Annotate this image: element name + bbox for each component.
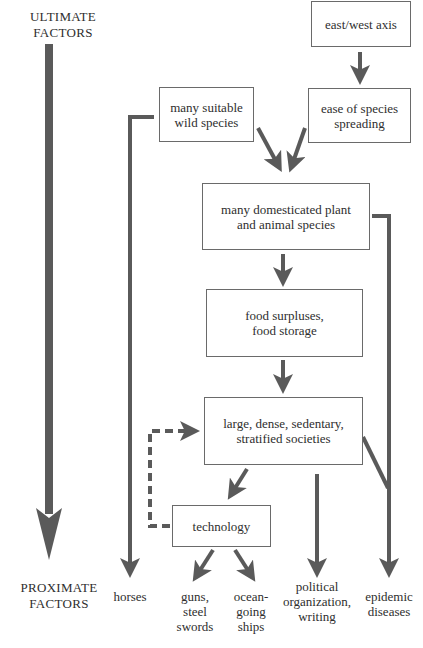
box-east-west-axis-text: east/west axis [325, 17, 397, 32]
box-east-west-axis: east/west axis [311, 1, 411, 47]
box-ease-text: ease of species spreading [321, 101, 398, 131]
line-domesticated-to-epidemic [372, 216, 389, 570]
outcome-ocean-going-ships: ocean- going ships [223, 589, 279, 634]
box-technology-text: technology [193, 519, 251, 534]
box-domesticated-text: many domesticated plant and animal speci… [221, 202, 351, 232]
proximate-factors-label: PROXIMATE FACTORS [4, 580, 114, 612]
outcome-guns-steel-swords: guns, steel swords [165, 589, 225, 634]
box-many-domesticated-species: many domesticated plant and animal speci… [202, 183, 370, 250]
box-wild-text: many suitable wild species [170, 100, 243, 130]
arrow-ease-to-domesticated [292, 128, 305, 165]
box-ease-of-species-spreading: ease of species spreading [308, 88, 411, 143]
box-societies-text: large, dense, sedentary, stratified soci… [223, 416, 344, 446]
box-food-text: food surpluses, food storage [245, 308, 324, 338]
ultimate-to-proximate-axis-arrow [36, 44, 62, 560]
box-many-suitable-wild-species: many suitable wild species [159, 87, 254, 142]
outcome-epidemic-diseases: epidemic diseases [357, 589, 421, 619]
arrow-societies-to-technology [232, 469, 247, 493]
box-large-dense-societies: large, dense, sedentary, stratified soci… [204, 397, 363, 465]
outcome-political-organization-writing: political organization, writing [278, 579, 356, 624]
box-food-surpluses: food surpluses, food storage [206, 289, 363, 357]
arrow-wild-to-domesticated [258, 128, 278, 165]
ultimate-factors-label: ULTIMATE FACTORS [10, 9, 116, 41]
arrow-technology-to-ships [235, 550, 251, 575]
outcome-horses: horses [100, 589, 160, 604]
arrow-technology-to-guns [197, 550, 213, 575]
line-societies-to-epidemic [363, 437, 388, 488]
box-technology: technology [172, 505, 271, 547]
